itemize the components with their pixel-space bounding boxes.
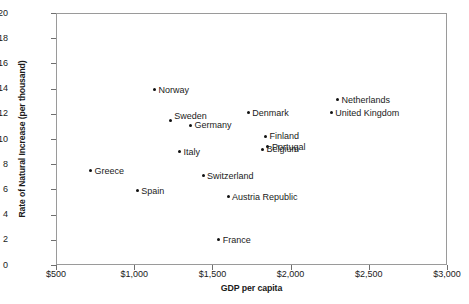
x-tick-label: $3,000 (412, 269, 469, 279)
scatter-chart: Rate of Natural Increase (per thousand) … (0, 0, 469, 304)
y-tick-mark (51, 89, 56, 90)
x-axis-title: GDP per capita (56, 283, 447, 293)
y-tick-mark (51, 114, 56, 115)
y-tick-label: 20 (0, 9, 8, 18)
y-tick-mark (51, 13, 56, 14)
data-point-label: Switzerland (207, 172, 254, 181)
x-tick-label: $1,000 (99, 269, 169, 279)
y-tick-label: 2 (0, 235, 8, 244)
x-tick-mark (369, 265, 370, 270)
y-tick-mark (51, 189, 56, 190)
data-point-label: Finland (270, 132, 300, 141)
y-tick-label: 10 (0, 135, 8, 144)
y-tick-mark (51, 139, 56, 140)
y-tick-label: 8 (0, 160, 8, 169)
data-point (89, 169, 92, 172)
data-point (330, 111, 333, 114)
y-tick-label: 0 (0, 261, 8, 270)
y-tick-mark (51, 38, 56, 39)
y-axis-title: Rate of Natural Increase (per thousand) (17, 14, 27, 264)
data-point-label: Netherlands (342, 96, 391, 105)
x-tick-label: $2,500 (334, 269, 404, 279)
data-point-label: Denmark (252, 109, 289, 118)
y-tick-label: 6 (0, 185, 8, 194)
x-tick-mark (212, 265, 213, 270)
y-tick-label: 18 (0, 34, 8, 43)
data-point (189, 124, 192, 127)
data-point-label: Greece (94, 167, 124, 176)
y-tick-mark (51, 215, 56, 216)
data-point-label: Austria Republic (232, 193, 298, 202)
data-point-label: United Kingdom (335, 109, 399, 118)
y-tick-label: 12 (0, 109, 8, 118)
y-tick-mark (51, 164, 56, 165)
x-tick-label: $2,000 (256, 269, 326, 279)
y-tick-mark (51, 240, 56, 241)
data-point-label: Germany (195, 121, 232, 130)
y-tick-label: 16 (0, 59, 8, 68)
x-tick-mark (134, 265, 135, 270)
x-tick-label: $500 (21, 269, 91, 279)
data-point (202, 174, 205, 177)
data-point-label: Norway (159, 86, 190, 95)
x-tick-mark (291, 265, 292, 270)
data-point-label: Italy (184, 148, 201, 157)
data-point (136, 189, 139, 192)
x-tick-mark (56, 265, 57, 270)
data-point (261, 148, 264, 151)
data-point-label: Belgium (266, 145, 299, 154)
y-tick-label: 14 (0, 84, 8, 93)
data-point-label: France (223, 236, 251, 245)
y-tick-mark (51, 63, 56, 64)
data-point (247, 111, 250, 114)
plot-area (56, 13, 447, 265)
x-tick-mark (447, 265, 448, 270)
data-point (169, 119, 172, 122)
y-tick-label: 4 (0, 210, 8, 219)
data-point-label: Spain (141, 187, 164, 196)
x-tick-label: $1,500 (177, 269, 247, 279)
